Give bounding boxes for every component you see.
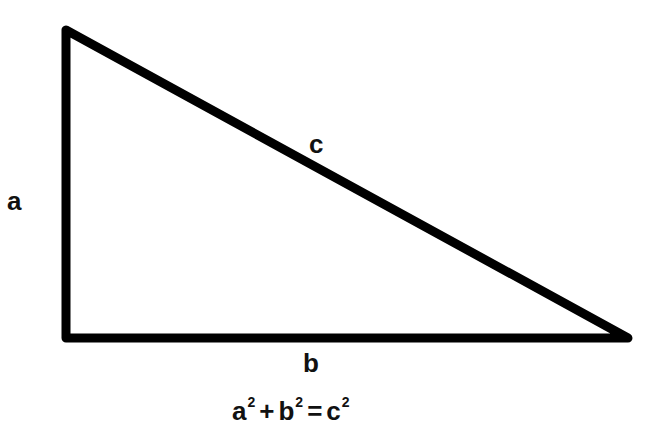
formula-plus: + xyxy=(259,396,274,426)
triangle-outline xyxy=(66,30,628,338)
formula-a: a xyxy=(232,396,246,426)
hypotenuse-c-label: c xyxy=(309,131,323,157)
formula-equals: = xyxy=(307,396,322,426)
right-triangle xyxy=(0,0,660,447)
pythagorean-formula: a2+b2=c2 xyxy=(232,398,350,424)
formula-b-exponent: 2 xyxy=(295,394,303,410)
formula-b: b xyxy=(278,396,294,426)
side-a-label: a xyxy=(7,188,21,214)
side-b-label: b xyxy=(303,350,319,376)
formula-c: c xyxy=(326,396,340,426)
formula-c-exponent: 2 xyxy=(342,394,350,410)
formula-a-exponent: 2 xyxy=(247,394,255,410)
